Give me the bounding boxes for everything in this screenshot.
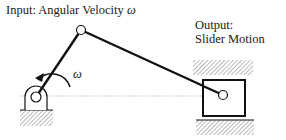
rotation-arrowhead-icon bbox=[35, 73, 44, 82]
crank-omega-label: ω bbox=[73, 67, 82, 81]
output-label: Output: Slider Motion bbox=[195, 18, 265, 46]
ground-hatch-pivot bbox=[20, 110, 53, 126]
slider-guide-bottom bbox=[196, 120, 254, 135]
input-label-text: Input: Angular Velocity bbox=[6, 3, 127, 17]
pivot-pin bbox=[31, 92, 41, 102]
crank-link bbox=[36, 30, 81, 97]
output-label-line1: Output: bbox=[195, 18, 265, 32]
slider-guide-top bbox=[193, 60, 253, 75]
input-omega-symbol: ω bbox=[127, 3, 136, 17]
crank-joint bbox=[77, 26, 86, 35]
input-label: Input: Angular Velocity ω bbox=[6, 3, 136, 17]
output-label-line2: Slider Motion bbox=[195, 32, 265, 46]
slider-pin bbox=[219, 91, 228, 100]
